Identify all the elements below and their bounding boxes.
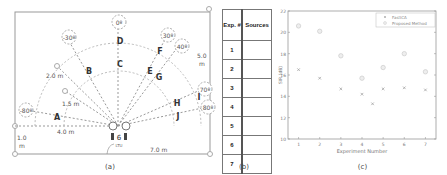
source-label: I	[198, 93, 201, 102]
data-point-proposed	[360, 76, 364, 80]
source-label: B	[86, 67, 92, 76]
data-point-fastica	[361, 93, 364, 96]
plot-area	[288, 11, 436, 139]
distance-label: 7.0 m	[150, 146, 167, 153]
angle-label: 30º	[163, 32, 174, 39]
distance-label: 1.5 m	[62, 100, 79, 107]
legend-label: Proposed Method	[392, 21, 427, 26]
data-point-fastica	[403, 87, 406, 90]
x-axis-label: Experiment Number	[337, 148, 389, 155]
source-label: E	[147, 67, 152, 76]
sir-scatter-chart: 101214161820221234567Experiment NumberSI…	[278, 0, 447, 175]
experiments-table: Exp. # Sources 1 2 3 4 5 6 7	[222, 9, 272, 174]
caption-a: (a)	[0, 163, 220, 171]
data-point-proposed	[318, 29, 322, 33]
angle-label: -80º	[20, 107, 33, 114]
data-point-fastica	[340, 88, 343, 91]
y-tick-label: 14	[280, 94, 286, 99]
distance-label: 5.0	[197, 52, 207, 59]
data-point-fastica	[371, 103, 374, 106]
source-label: F	[157, 47, 162, 56]
angle-label: 0º	[116, 19, 123, 26]
source-label: D	[117, 37, 124, 46]
microphone-array: 6 LTU	[107, 122, 130, 154]
source-label: G	[156, 73, 163, 82]
array-label: LTU	[115, 143, 122, 148]
source-label: H	[174, 99, 181, 108]
header-sources: Sources	[242, 10, 272, 41]
y-tick-label: 22	[280, 9, 286, 14]
distance-label: m	[19, 142, 25, 149]
experiments-table-panel: Exp. # Sources 1 2 3 4 5 6 7 (b)	[218, 0, 282, 175]
y-tick-label: 20	[280, 30, 286, 35]
distance-label: 2.0 m	[46, 72, 63, 79]
angle-label: -30º	[63, 34, 76, 41]
source-label: C	[117, 60, 123, 69]
legend-label: FastICA	[392, 15, 407, 20]
data-point-fastica	[297, 68, 300, 71]
table-row: 2	[223, 60, 272, 79]
distance-label: m	[199, 60, 205, 67]
data-point-proposed	[402, 51, 406, 55]
layout-svg: -30º 0º 30º 40º -80º 70º 80º A B C D E F…	[0, 0, 220, 175]
sir-chart-panel: 101214161820221234567Experiment NumberSI…	[278, 0, 447, 175]
table-row: 4	[223, 98, 272, 117]
caption-b: (b)	[212, 163, 276, 171]
caption-c: (c)	[278, 163, 447, 171]
x-tick-label: 5	[382, 142, 385, 147]
data-point-proposed	[339, 54, 343, 58]
x-tick-label: 7	[424, 142, 427, 147]
data-point-proposed	[381, 65, 385, 69]
y-tick-label: 10	[280, 137, 286, 142]
data-point-fastica	[318, 77, 321, 80]
data-point-proposed	[296, 24, 300, 28]
angle-label: 40º	[177, 43, 188, 50]
x-tick-label: 2	[318, 142, 321, 147]
x-tick-label: 3	[339, 142, 342, 147]
table-row: 5	[223, 117, 272, 136]
table-row: 3	[223, 79, 272, 98]
table-row: 1	[223, 41, 272, 60]
x-tick-label: 1	[297, 142, 300, 147]
angle-label: 70º	[200, 86, 211, 93]
y-tick-label: 18	[280, 52, 286, 57]
distance-label: 1.0	[17, 134, 27, 141]
header-exp: Exp. #	[223, 10, 243, 41]
data-point-fastica	[382, 88, 385, 91]
x-tick-label: 6	[403, 142, 406, 147]
source-label: A	[54, 113, 61, 122]
source-label: J	[176, 112, 180, 121]
data-point-fastica	[424, 89, 427, 92]
mic-label: 6	[117, 134, 122, 142]
room-layout-diagram: -30º 0º 30º 40º -80º 70º 80º A B C D E F…	[0, 0, 220, 175]
distance-label: 4.0 m	[57, 128, 74, 135]
y-axis-label: SIR (dB)	[278, 66, 283, 84]
y-tick-label: 12	[280, 116, 286, 121]
table-row: 6	[223, 136, 272, 155]
data-point-proposed	[423, 70, 427, 74]
angle-label: 80º	[203, 104, 214, 111]
x-tick-label: 4	[361, 142, 364, 147]
room-outline	[15, 12, 210, 154]
